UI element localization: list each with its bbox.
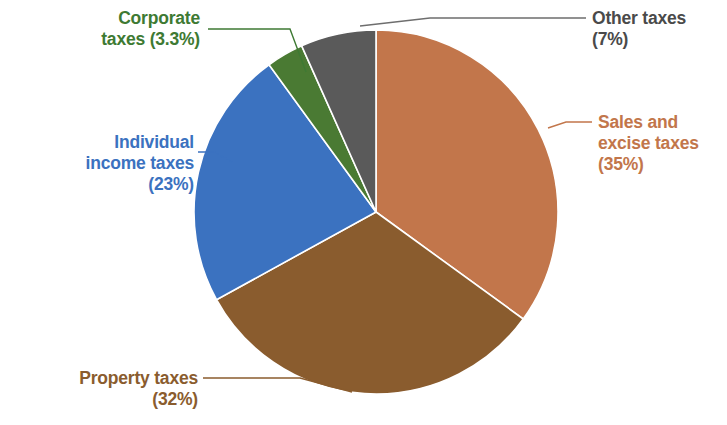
pie-label-sales-and-excise-taxes-percent: (35%)	[598, 154, 644, 174]
pie-label-individual-income-taxes-percent: (23%)	[148, 174, 194, 194]
pie-slices	[194, 30, 558, 394]
pie-label-other-taxes: Other taxes (7%)	[592, 8, 686, 50]
pie-label-other-taxes-line1: Other taxes	[592, 8, 686, 28]
pie-chart-figure: Corporate taxes (3.3%) Other taxes (7%) …	[0, 0, 727, 425]
pie-label-individual-income-taxes: Individual income taxes (23%)	[10, 132, 194, 195]
pie-label-other-taxes-percent: (7%)	[592, 29, 628, 49]
pie-label-corporate-taxes: Corporate taxes (3.3%)	[24, 8, 200, 50]
pie-label-sales-and-excise-taxes-line2: excise taxes	[598, 133, 699, 153]
pie-chart-svg	[0, 0, 727, 425]
pie-label-individual-income-taxes-line2: income taxes	[86, 153, 195, 173]
pie-label-corporate-taxes-line2: taxes	[101, 29, 145, 49]
pie-label-property-taxes: Property taxes (32%)	[2, 368, 198, 410]
pie-label-sales-and-excise-taxes: Sales and excise taxes (35%)	[598, 112, 699, 175]
leader-line-other-taxes	[360, 18, 586, 26]
pie-label-individual-income-taxes-line1: Individual	[114, 132, 194, 152]
pie-label-corporate-taxes-line1: Corporate	[118, 8, 200, 28]
pie-label-property-taxes-percent: (32%)	[152, 389, 198, 409]
leader-line-sales-and-excise-taxes	[548, 122, 592, 128]
pie-label-sales-and-excise-taxes-line1: Sales and	[598, 112, 678, 132]
pie-label-corporate-taxes-percent: (3.3%)	[150, 29, 200, 49]
pie-label-property-taxes-line1: Property taxes	[79, 368, 198, 388]
